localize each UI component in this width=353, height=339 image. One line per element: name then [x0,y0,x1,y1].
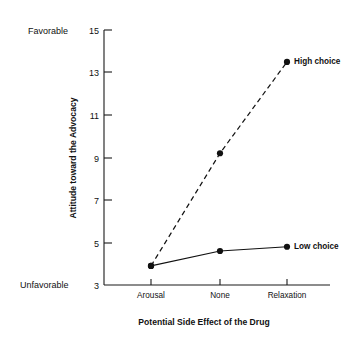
x-axis-title: Potential Side Effect of the Drug [138,317,269,327]
x-category-label-arousal: Arousal [137,291,165,300]
data-point-high-none [217,150,223,156]
line-chart-canvas: 15 13 11 9 7 5 3 Favorable Unfavorable A… [0,0,353,339]
data-point-low-relaxation [284,244,290,250]
y-tick-label-7: 7 [94,196,99,206]
data-point-low-arousal [148,263,154,269]
series-high-choice: High choice [148,57,341,269]
y-tick-label-3: 3 [94,281,99,291]
x-category-label-relaxation: Relaxation [268,291,307,300]
x-category-label-none: None [210,291,230,300]
y-tick-label-15: 15 [89,26,99,36]
x-axis-category-labels: Arousal None Relaxation [137,291,307,300]
y-tick-label-5: 5 [94,239,99,249]
data-point-high-relaxation [284,59,290,65]
y-axis-low-anchor-label: Unfavorable [20,280,69,290]
y-axis-high-anchor-label: Favorable [28,26,68,36]
y-tick-label-13: 13 [89,68,99,78]
series-low-choice: Low choice [148,242,339,269]
series-label-low-choice: Low choice [294,242,339,251]
series-high-choice-line [151,62,287,266]
y-axis-tick-labels: 15 13 11 9 7 5 3 [89,26,99,291]
y-axis-ticks [104,30,112,243]
x-axis-ticks [151,279,287,285]
chart-figure: 15 13 11 9 7 5 3 Favorable Unfavorable A… [0,0,353,339]
data-point-low-none [217,248,223,254]
y-axis-title: Attitude toward the Advocacy [68,97,78,218]
y-tick-label-11: 11 [90,111,99,121]
series-label-high-choice: High choice [294,57,341,66]
y-tick-label-9: 9 [94,154,99,164]
